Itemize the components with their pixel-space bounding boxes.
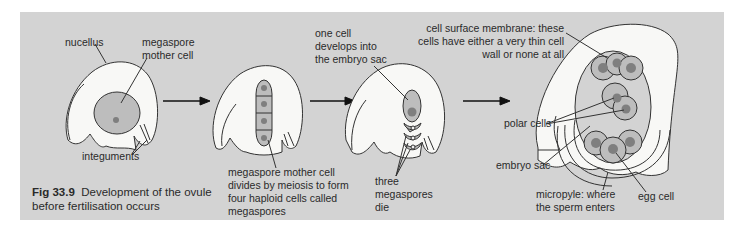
- label-meiosis-line3: four haploid cells called: [228, 192, 337, 205]
- label-cell-surface-membrane-line2: cells have either a very thin cell: [418, 35, 564, 48]
- arrow-2: [310, 97, 355, 105]
- label-nucellus: nucellus: [65, 36, 104, 49]
- label-meiosis-line4: megaspores: [228, 205, 286, 218]
- label-meiosis-line1: megaspore mother cell: [228, 166, 335, 179]
- label-one-cell-line3: the embryo sac: [315, 53, 387, 66]
- label-megaspore-mother-cell-line2: mother cell: [142, 49, 193, 62]
- stage-2-ovule: [213, 66, 303, 168]
- label-meiosis-line2: divides by meiosis to form: [228, 179, 349, 192]
- label-embryo-sac: embryo sac: [496, 159, 550, 172]
- label-one-cell-line1: one cell: [315, 27, 351, 40]
- label-three-megaspores-line1: three: [375, 175, 399, 188]
- figure-number: Fig 33.9: [32, 186, 75, 198]
- stage-3-ovule: [345, 64, 444, 176]
- label-megaspore-mother-cell-line1: megaspore: [142, 36, 195, 49]
- label-integuments: integuments: [82, 150, 139, 163]
- label-micropyle-line1: micropyle: where: [536, 188, 615, 201]
- arrow-1: [163, 97, 210, 105]
- label-one-cell-line2: develops into: [315, 40, 377, 53]
- caption-line1: Fig 33.9 Development of the ovule: [32, 186, 212, 200]
- figure-caption: Fig 33.9 Development of the ovule before…: [32, 186, 212, 213]
- label-micropyle-line2: the sperm enters: [536, 201, 615, 214]
- label-three-megaspores-line3: die: [375, 201, 389, 214]
- label-polar-cells: polar cells: [504, 117, 551, 130]
- label-egg-cell: egg cell: [638, 190, 674, 203]
- label-cell-surface-membrane-line3: wall or none at all: [482, 48, 564, 61]
- label-cell-surface-membrane-line1: cell surface membrane: these: [426, 22, 564, 35]
- caption-title-line1: Development of the ovule: [81, 186, 211, 198]
- caption-title-line2: before fertilisation occurs: [32, 200, 212, 214]
- arrow-3: [463, 97, 510, 105]
- label-three-megaspores-line2: megaspores: [375, 188, 433, 201]
